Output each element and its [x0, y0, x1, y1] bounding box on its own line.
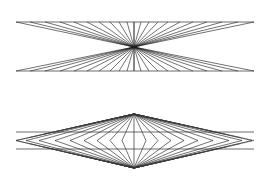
line-art-canvas	[0, 0, 269, 181]
artboard	[0, 0, 269, 181]
